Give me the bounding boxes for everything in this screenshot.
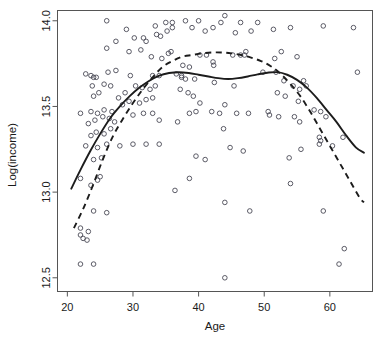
data-point bbox=[190, 25, 195, 30]
data-point bbox=[271, 27, 276, 32]
data-point bbox=[78, 111, 83, 116]
data-point bbox=[187, 111, 192, 116]
data-point bbox=[198, 101, 203, 106]
data-point bbox=[337, 262, 342, 267]
data-point bbox=[94, 130, 99, 135]
x-axis-ticks bbox=[67, 292, 330, 297]
data-point bbox=[318, 109, 323, 114]
data-point bbox=[91, 157, 96, 162]
data-point bbox=[342, 246, 347, 251]
scatter-plot-figure: 2030405060 12.513.013.514.0 Age Log(inco… bbox=[0, 0, 392, 337]
data-point bbox=[219, 20, 224, 25]
data-point bbox=[279, 49, 284, 54]
data-point bbox=[112, 120, 117, 125]
data-point bbox=[228, 145, 233, 150]
data-point bbox=[91, 209, 96, 214]
data-point bbox=[324, 114, 329, 119]
data-point bbox=[100, 114, 105, 119]
data-point bbox=[297, 120, 302, 125]
data-point bbox=[212, 80, 217, 85]
data-point bbox=[221, 126, 226, 131]
data-point bbox=[175, 120, 180, 125]
data-point bbox=[158, 34, 163, 39]
data-point bbox=[194, 109, 199, 114]
data-point bbox=[89, 133, 94, 138]
data-point bbox=[90, 84, 95, 89]
data-point bbox=[321, 24, 326, 29]
plot-canvas: 2030405060 12.513.013.514.0 Age Log(inco… bbox=[0, 0, 392, 337]
data-point bbox=[233, 30, 238, 35]
x-tick-label: 50 bbox=[258, 301, 270, 313]
data-point bbox=[355, 70, 360, 75]
data-point bbox=[124, 27, 129, 32]
data-point bbox=[139, 48, 144, 53]
data-point bbox=[133, 84, 138, 89]
data-point bbox=[91, 94, 96, 99]
data-point bbox=[196, 18, 201, 23]
data-point bbox=[247, 209, 252, 214]
data-point bbox=[276, 114, 281, 119]
x-tick-label: 60 bbox=[324, 301, 336, 313]
data-point bbox=[203, 157, 208, 162]
data-point bbox=[321, 209, 326, 214]
y-axis-tick-labels: 12.513.013.514.0 bbox=[41, 10, 53, 288]
data-point bbox=[255, 20, 260, 25]
x-tick-label: 30 bbox=[127, 301, 139, 313]
x-tick-label: 40 bbox=[192, 301, 204, 313]
data-point bbox=[153, 24, 158, 29]
data-point bbox=[132, 36, 137, 41]
data-point bbox=[149, 54, 154, 59]
data-point bbox=[194, 154, 199, 159]
data-point bbox=[165, 29, 170, 34]
scatter-points bbox=[78, 13, 360, 280]
data-point bbox=[275, 90, 280, 95]
data-point bbox=[85, 238, 90, 243]
data-point bbox=[144, 142, 149, 147]
data-point bbox=[114, 68, 119, 73]
data-point bbox=[86, 229, 91, 234]
y-tick-label: 12.5 bbox=[41, 267, 53, 288]
data-point bbox=[157, 142, 162, 147]
data-point bbox=[78, 176, 83, 181]
data-point bbox=[217, 111, 222, 116]
y-tick-label: 13.0 bbox=[41, 181, 53, 202]
data-point bbox=[78, 226, 83, 231]
data-point bbox=[351, 25, 356, 30]
data-point bbox=[183, 77, 188, 82]
data-point bbox=[341, 135, 346, 140]
data-point bbox=[187, 176, 192, 181]
data-point bbox=[299, 147, 304, 152]
data-point bbox=[137, 101, 142, 106]
data-point bbox=[170, 25, 175, 30]
data-point bbox=[89, 109, 94, 114]
y-axis-title: Log(income) bbox=[6, 123, 18, 187]
y-tick-label: 14.0 bbox=[41, 10, 53, 31]
data-point bbox=[131, 142, 136, 147]
data-point bbox=[241, 149, 246, 154]
data-point bbox=[144, 39, 149, 44]
data-point bbox=[312, 108, 317, 113]
data-point bbox=[288, 181, 293, 186]
data-point bbox=[131, 113, 136, 118]
data-point bbox=[144, 97, 149, 102]
data-point bbox=[209, 109, 214, 114]
data-point bbox=[95, 111, 100, 116]
data-point bbox=[288, 25, 293, 30]
data-point bbox=[187, 65, 192, 70]
data-point bbox=[95, 145, 100, 150]
data-point bbox=[160, 56, 165, 61]
data-point bbox=[238, 20, 243, 25]
data-point bbox=[83, 72, 88, 77]
data-point bbox=[211, 25, 216, 30]
data-point bbox=[91, 262, 96, 267]
data-point bbox=[93, 118, 98, 123]
data-point bbox=[297, 87, 302, 92]
data-point bbox=[170, 20, 175, 25]
data-point bbox=[223, 102, 228, 107]
x-tick-label: 20 bbox=[61, 301, 73, 313]
data-point bbox=[108, 126, 113, 131]
data-point bbox=[127, 49, 132, 54]
data-point bbox=[106, 70, 111, 75]
smoothing-curves bbox=[71, 52, 364, 228]
data-point bbox=[150, 96, 155, 101]
